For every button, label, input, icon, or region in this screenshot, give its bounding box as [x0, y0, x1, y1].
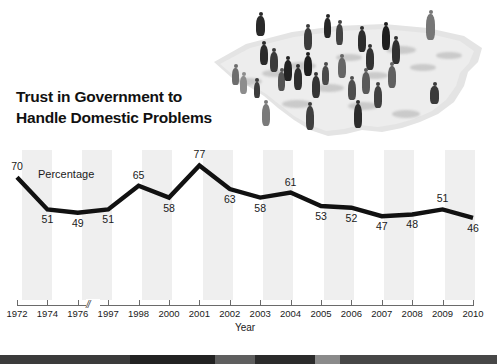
- person-figure: [294, 68, 302, 90]
- axis-tick: [473, 300, 474, 306]
- axis-tick: [108, 300, 109, 306]
- axis-tick: [78, 300, 79, 306]
- data-label: 63: [224, 193, 236, 205]
- person-shadow: [386, 46, 416, 54]
- person-figure: [260, 45, 268, 65]
- data-label: 47: [376, 220, 388, 232]
- data-label: 51: [437, 192, 449, 204]
- person-figure: [362, 72, 370, 94]
- person-figure: [382, 26, 390, 50]
- data-label: 70: [11, 160, 23, 172]
- person-figure: [270, 52, 278, 72]
- x-tick-label: 2005: [310, 308, 331, 319]
- person-figure: [324, 18, 331, 38]
- x-tick-label: 1998: [128, 308, 149, 319]
- x-tick-label: 2006: [341, 308, 362, 319]
- y-axis-title: Percentage: [38, 168, 94, 180]
- data-label: 58: [163, 202, 175, 214]
- person-figure: [348, 80, 356, 100]
- person-figure: [256, 16, 265, 36]
- page-footer-bar: [0, 355, 497, 364]
- figure-page: Trust in Government to Handle Domestic P…: [0, 0, 497, 364]
- person-figure: [240, 76, 247, 94]
- axis-tick: [17, 300, 18, 306]
- person-figure: [366, 48, 374, 70]
- x-axis: // 1972197419761997199820002001200220032…: [0, 300, 497, 340]
- person-figure: [336, 24, 343, 45]
- person-shadow: [436, 52, 462, 59]
- page-title: Trust in Government to Handle Domestic P…: [16, 86, 231, 129]
- data-label: 48: [406, 218, 418, 230]
- x-tick-label: 1972: [6, 308, 27, 319]
- person-figure: [392, 40, 400, 64]
- data-label: 77: [194, 148, 206, 160]
- people-on-us-map-photo: [196, 0, 497, 158]
- data-label: 61: [285, 176, 297, 188]
- axis-tick: [199, 300, 200, 306]
- data-label: 49: [72, 217, 84, 229]
- axis-tick: [169, 300, 170, 306]
- person-figure: [306, 106, 314, 130]
- axis-tick: [412, 300, 413, 306]
- x-tick-label: 2003: [250, 308, 271, 319]
- chart-plot-area: Percentage 70514951655877635861535247485…: [0, 150, 497, 302]
- data-label: 51: [102, 213, 114, 225]
- person-figure: [338, 58, 346, 78]
- x-tick-label: 2007: [371, 308, 392, 319]
- person-figure: [354, 104, 362, 128]
- person-figure: [430, 86, 439, 104]
- data-label: 53: [315, 210, 327, 222]
- person-shadow: [410, 64, 436, 71]
- person-figure: [358, 30, 366, 52]
- x-tick-label: 1997: [98, 308, 119, 319]
- person-figure: [254, 82, 260, 98]
- axis-tick: [443, 300, 444, 306]
- person-figure: [304, 28, 312, 50]
- data-label: 65: [133, 169, 145, 181]
- axis-tick: [260, 300, 261, 306]
- person-figure: [322, 66, 329, 85]
- person-figure: [262, 104, 270, 126]
- person-figure: [232, 68, 239, 85]
- person-figure: [304, 56, 312, 76]
- x-tick-label: 2001: [189, 308, 210, 319]
- person-figure: [284, 60, 292, 81]
- axis-tick: [230, 300, 231, 306]
- x-tick-label: 2010: [462, 308, 483, 319]
- x-tick-label: 2009: [432, 308, 453, 319]
- x-tick-label: 2000: [158, 308, 179, 319]
- data-label: 58: [254, 202, 266, 214]
- person-shadow: [392, 110, 420, 118]
- axis-tick: [382, 300, 383, 306]
- person-figure: [426, 14, 435, 40]
- data-label: 51: [42, 213, 54, 225]
- x-tick-label: 2002: [219, 308, 240, 319]
- axis-tick: [291, 300, 292, 306]
- axis-tick: [47, 300, 48, 306]
- x-tick-label: 1974: [37, 308, 58, 319]
- person-figure: [312, 76, 320, 98]
- person-figure: [388, 66, 396, 88]
- x-tick-label: 2008: [402, 308, 423, 319]
- axis-tick: [321, 300, 322, 306]
- data-label: 52: [346, 212, 358, 224]
- x-tick-label: 2004: [280, 308, 301, 319]
- x-axis-title: Year: [235, 322, 255, 333]
- x-tick-label: 1976: [67, 308, 88, 319]
- axis-tick: [351, 300, 352, 306]
- person-figure: [374, 86, 382, 108]
- data-label: 46: [467, 222, 479, 234]
- axis-tick: [139, 300, 140, 306]
